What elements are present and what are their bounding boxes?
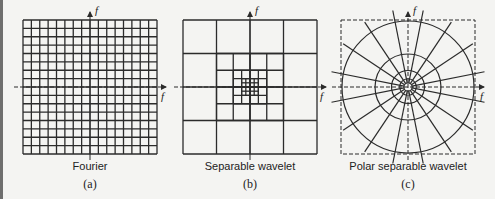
panel-a-caption: Fourier (73, 160, 108, 172)
panel-b-caption: Separable wavelet (205, 160, 296, 172)
panel-b-label: (b) (243, 177, 257, 192)
panel-c-label: (c) (401, 177, 414, 192)
panel-c-caption: Polar separable wavelet (349, 160, 466, 172)
panel-b-horizontal-axis-label: f (320, 90, 323, 102)
panel-c-vertical-axis-label: f (413, 4, 416, 16)
panel-a-vertical-axis-label: f (95, 4, 98, 16)
panel-b-vertical-axis-label: f (255, 4, 258, 16)
panel-a-horizontal-axis-label: f (161, 90, 164, 102)
panel-c-axes (332, 12, 484, 160)
panel-c-horizontal-axis-label: f (480, 90, 483, 102)
panel-b-axes (174, 12, 326, 160)
panel-a-label: (a) (83, 177, 96, 192)
